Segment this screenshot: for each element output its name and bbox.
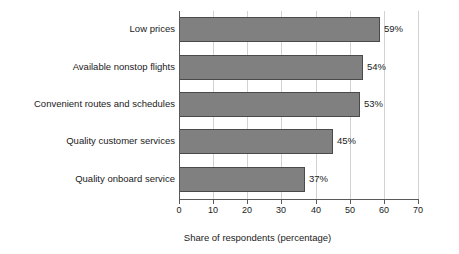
x-tick-mark <box>418 200 419 204</box>
bar-row: 45% <box>179 129 418 154</box>
category-label-low-prices: Low prices <box>130 23 175 34</box>
x-tick-mark <box>179 200 180 204</box>
category-label-quality-onboard-service: Quality onboard service <box>75 173 175 184</box>
bar-row: 59% <box>179 17 418 42</box>
category-label-convenient-routes-and-schedules: Convenient routes and schedules <box>34 98 175 109</box>
bar-row: 37% <box>179 167 418 192</box>
bar-quality-onboard-service[interactable] <box>179 167 305 192</box>
x-tick-label-70: 70 <box>406 205 430 216</box>
category-axis-labels: Low prices Available nonstop flights Con… <box>0 11 175 199</box>
x-tick-label-30: 30 <box>269 205 293 216</box>
x-tick-mark <box>213 200 214 204</box>
bar-chart-figure: 59% 54% 53% 45% 37% 0 10 20 30 40 50 60 <box>0 0 459 254</box>
x-tick-mark <box>350 200 351 204</box>
x-tick-label-20: 20 <box>235 205 259 216</box>
bar-convenient-routes-and-schedules[interactable] <box>179 92 360 117</box>
category-label-available-nonstop-flights: Available nonstop flights <box>73 61 175 72</box>
bar-value-label: 37% <box>309 173 328 184</box>
category-label-quality-customer-services: Quality customer services <box>66 135 175 146</box>
x-tick-label-0: 0 <box>167 205 191 216</box>
plot-area: 59% 54% 53% 45% 37% <box>179 11 418 199</box>
x-tick-mark <box>316 200 317 204</box>
bar-value-label: 45% <box>337 135 356 146</box>
bar-row: 53% <box>179 92 418 117</box>
x-axis-title: Share of respondents (percentage) <box>0 232 459 244</box>
x-tick-mark <box>281 200 282 204</box>
bar-low-prices[interactable] <box>179 17 380 42</box>
bar-value-label: 53% <box>364 98 383 109</box>
x-tick-label-10: 10 <box>201 205 225 216</box>
x-tick-label-50: 50 <box>338 205 362 216</box>
gridline-70 <box>418 11 419 199</box>
x-tick-mark <box>247 200 248 204</box>
x-tick-label-40: 40 <box>304 205 328 216</box>
bar-quality-customer-services[interactable] <box>179 129 333 154</box>
x-tick-mark <box>384 200 385 204</box>
x-axis-line <box>179 199 419 200</box>
x-tick-label-60: 60 <box>372 205 396 216</box>
bar-value-label: 54% <box>367 61 386 72</box>
bar-row: 54% <box>179 55 418 80</box>
y-axis-line <box>179 11 180 200</box>
bar-value-label: 59% <box>384 23 403 34</box>
bar-available-nonstop-flights[interactable] <box>179 55 363 80</box>
